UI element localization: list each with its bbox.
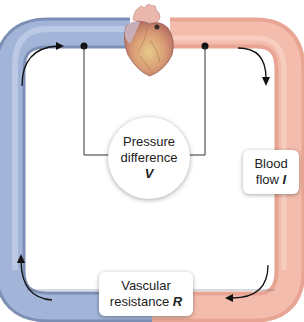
- flow-line1: Blood: [254, 156, 287, 172]
- pressure-symbol: V: [145, 166, 154, 182]
- resistance-line1: Vascular: [121, 278, 171, 294]
- flow-arrow-top-right: [238, 48, 270, 86]
- pressure-difference-node: Pressure difference V: [108, 117, 190, 199]
- blood-flow-node: Blood flow I: [243, 150, 299, 194]
- pressure-line2: difference: [121, 150, 178, 166]
- flow-line2: flow: [256, 172, 279, 187]
- resistance-symbol: R: [173, 294, 182, 309]
- flow-symbol: I: [283, 172, 287, 187]
- resistance-line2: resistance: [110, 294, 169, 309]
- vascular-resistance-node: Vascular resistance R: [99, 272, 193, 316]
- pressure-line1: Pressure: [123, 134, 175, 150]
- heart-icon: [124, 4, 173, 76]
